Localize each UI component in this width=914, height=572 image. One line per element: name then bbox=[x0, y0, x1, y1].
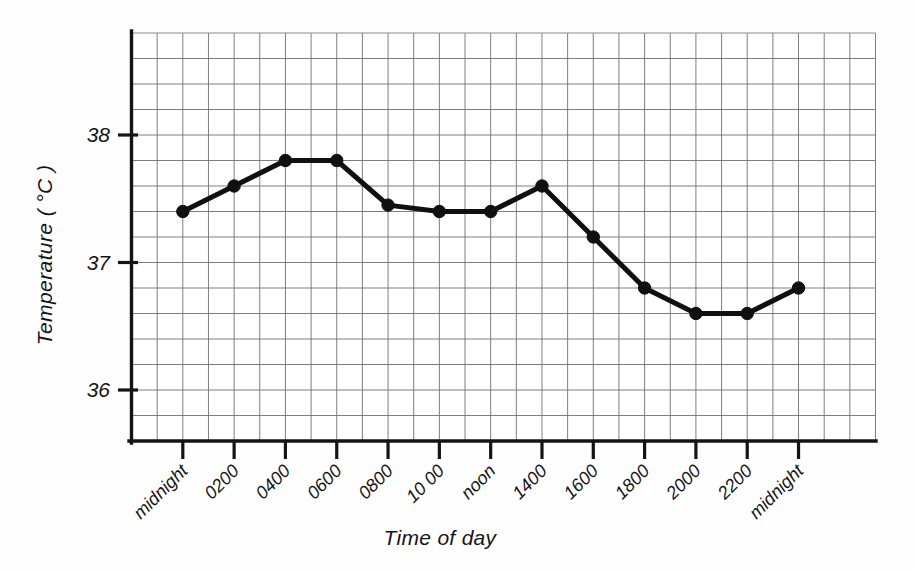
data-point-marker bbox=[638, 282, 650, 294]
data-point-marker bbox=[792, 282, 804, 294]
temperature-line-chart: 383736 midnight020004000600080010 00noon… bbox=[0, 0, 914, 572]
x-tick-label: 0600 bbox=[303, 461, 345, 503]
x-tick-label: 1800 bbox=[611, 461, 653, 503]
x-tick-label: 10 00 bbox=[402, 461, 448, 507]
plot-background bbox=[130, 33, 875, 442]
x-tick-label: 1600 bbox=[560, 461, 602, 503]
data-point-marker bbox=[433, 205, 445, 217]
y-tick-label: 38 bbox=[87, 123, 111, 146]
data-point-marker bbox=[228, 180, 240, 192]
data-point-marker bbox=[690, 307, 702, 319]
data-point-marker bbox=[741, 307, 753, 319]
data-point-marker bbox=[331, 154, 343, 166]
x-axis-title: Time of day bbox=[384, 526, 498, 549]
y-axis-title: Temperature ( °C ) bbox=[33, 165, 56, 346]
x-tick-label: 0400 bbox=[252, 461, 294, 503]
data-point-marker bbox=[382, 199, 394, 211]
y-tick-label: 36 bbox=[87, 378, 111, 401]
x-tick-label: 0800 bbox=[354, 461, 396, 503]
x-tick-label: 2000 bbox=[662, 461, 705, 504]
data-point-marker bbox=[177, 205, 189, 217]
data-point-marker bbox=[587, 231, 599, 243]
data-point-marker bbox=[279, 154, 291, 166]
data-point-marker bbox=[484, 205, 496, 217]
x-tick-label: 2200 bbox=[713, 461, 756, 504]
x-tick-label: 0200 bbox=[200, 461, 242, 503]
x-axis-ticks: midnight020004000600080010 00noon1400160… bbox=[129, 441, 808, 523]
y-tick-label: 37 bbox=[87, 251, 112, 274]
x-tick-label: 1400 bbox=[508, 461, 550, 503]
x-tick-label: noon bbox=[457, 461, 499, 503]
data-point-marker bbox=[536, 180, 548, 192]
x-tick-label: midnight bbox=[129, 460, 192, 523]
chart-figure: 383736 midnight020004000600080010 00noon… bbox=[0, 0, 914, 572]
x-tick-label: midnight bbox=[745, 460, 808, 523]
